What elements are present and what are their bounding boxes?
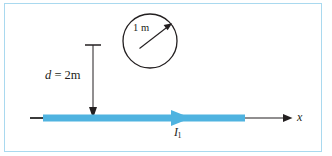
x-axis-arrow-icon (245, 114, 293, 122)
distance-label: d = 2m (45, 69, 81, 82)
radius-label: 1 m (133, 23, 149, 34)
figure-container: d = 2m 1 m I1 x (0, 0, 332, 156)
distance-value: = 2m (51, 68, 80, 82)
current-direction-arrowhead-icon (171, 110, 191, 126)
current-subscript: 1 (178, 131, 182, 140)
x-axis-label: x (297, 111, 302, 123)
current-label: I1 (174, 126, 182, 140)
distance-dimension-arrow-icon (85, 45, 101, 119)
